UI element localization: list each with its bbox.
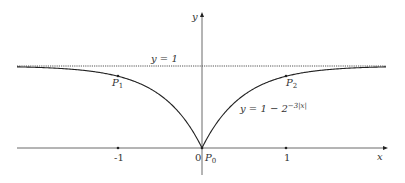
x-axis-label: x [377, 151, 383, 162]
point-p0-label: P0 [204, 152, 216, 165]
tick-one [285, 147, 288, 150]
curve-label-exponent: −3|x| [288, 102, 307, 110]
tick-label-neg-one: -1 [114, 152, 124, 163]
tick-label-one: 1 [284, 152, 290, 163]
graph-svg: y x y = 1 y = 1 − 2−3|x| P1 P2 P0 -1 0 1 [0, 0, 405, 183]
curve-label-base: y = 1 − 2 [239, 103, 288, 114]
asymptote-label: y = 1 [150, 53, 178, 64]
y-axis-label: y [191, 11, 198, 22]
tick-label-zero: 0 [195, 152, 201, 163]
y-axis-arrow-icon [200, 12, 204, 17]
point-p0-dot [201, 147, 204, 150]
curve-label: y = 1 − 2−3|x| [239, 102, 307, 114]
point-p1-label: P1 [111, 77, 123, 90]
point-p2-label: P2 [285, 77, 297, 90]
function-graph: y x y = 1 y = 1 − 2−3|x| P1 P2 P0 -1 0 1 [0, 0, 405, 183]
function-curve [17, 67, 386, 148]
x-axis-arrow-icon [383, 146, 388, 150]
tick-neg-one [117, 147, 120, 150]
